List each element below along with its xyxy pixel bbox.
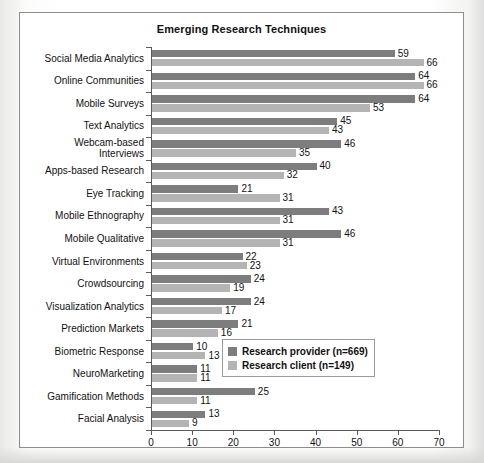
category-tick <box>146 205 151 206</box>
category-label: Webcam-basedInterviews <box>74 137 144 159</box>
bar-value-label: 35 <box>299 147 310 158</box>
legend-label-client: Research client (n=149) <box>242 360 354 371</box>
bar-value-label: 43 <box>332 124 343 135</box>
bar-value-label: 53 <box>373 102 384 113</box>
bar-value-label: 23 <box>250 260 261 271</box>
x-axis-tick-label: 10 <box>187 437 198 448</box>
category-tick <box>146 295 151 296</box>
category-label: Mobile Qualitative <box>65 233 144 244</box>
bar-client <box>152 374 197 381</box>
bar-value-label: 31 <box>283 214 294 225</box>
bar-value-label: 13 <box>208 350 219 361</box>
bar-value-label: 32 <box>287 169 298 180</box>
category-tick <box>146 160 151 161</box>
bar-value-label: 21 <box>241 318 252 329</box>
x-axis-tick <box>233 430 234 435</box>
category-label: Mobile Ethnography <box>55 210 144 221</box>
legend-label-provider: Research provider (n=669) <box>242 346 368 357</box>
category-tick <box>146 137 151 138</box>
x-axis-tick-label: 70 <box>433 437 444 448</box>
bar-value-label: 9 <box>192 417 198 428</box>
category-label: Social Media Analytics <box>45 53 145 64</box>
x-axis-tick-label: 30 <box>269 437 280 448</box>
category-tick <box>146 430 151 431</box>
legend-swatch-icon-client <box>228 361 237 370</box>
bar-provider <box>152 253 243 260</box>
category-tick <box>146 227 151 228</box>
category-label: Mobile Surveys <box>76 98 144 109</box>
bar-client <box>152 82 424 89</box>
bar-client <box>152 127 329 134</box>
bar-client <box>152 104 370 111</box>
legend-item-client: Research client (n=149) <box>228 358 368 372</box>
category-label: Online Communities <box>54 75 144 86</box>
x-axis-tick <box>274 430 275 435</box>
bar-client <box>152 172 284 179</box>
bar-value-label: 59 <box>398 48 409 59</box>
category-label: Biometric Response <box>55 346 144 357</box>
x-axis-tick-label: 0 <box>148 437 154 448</box>
category-tick <box>146 362 151 363</box>
category-tick <box>146 317 151 318</box>
bar-value-label: 25 <box>258 386 269 397</box>
bar-client <box>152 217 280 224</box>
bar-value-label: 31 <box>283 237 294 248</box>
category-tick <box>146 182 151 183</box>
bar-value-label: 21 <box>241 183 252 194</box>
category-label: Apps-based Research <box>45 165 144 176</box>
category-label: Visualization Analytics <box>46 301 144 312</box>
x-axis-tick <box>439 430 440 435</box>
x-axis-tick <box>151 430 152 435</box>
bar-client <box>152 352 205 359</box>
category-label: NeuroMarketing <box>73 368 144 379</box>
bar-value-label: 64 <box>418 93 429 104</box>
bar-provider <box>152 185 238 192</box>
x-axis-line <box>151 430 440 431</box>
category-tick <box>146 272 151 273</box>
x-axis-tick-label: 40 <box>310 437 321 448</box>
x-axis-tick-label: 60 <box>392 437 403 448</box>
bar-value-label: 43 <box>332 205 343 216</box>
bar-value-label: 24 <box>254 296 265 307</box>
x-axis-tick-label: 20 <box>228 437 239 448</box>
x-axis-tick <box>316 430 317 435</box>
bar-provider <box>152 118 337 125</box>
x-axis-tick <box>357 430 358 435</box>
bar-value-label: 17 <box>225 305 236 316</box>
category-label: Text Analytics <box>83 120 144 131</box>
chart-title: Emerging Research Techniques <box>20 23 463 35</box>
bar-client <box>152 329 218 336</box>
bar-client <box>152 194 280 201</box>
bar-provider <box>152 230 341 237</box>
category-label: Facial Analysis <box>78 413 144 424</box>
bar-provider <box>152 365 197 372</box>
category-label: Crowdsourcing <box>77 278 144 289</box>
bar-value-label: 11 <box>200 372 210 383</box>
bar-client <box>152 284 230 291</box>
bar-value-label: 11 <box>200 395 210 406</box>
category-label: Eye Tracking <box>86 188 144 199</box>
chart-frame: Emerging Research Techniques 01020304050… <box>19 12 464 448</box>
category-label: Gamification Methods <box>47 391 144 402</box>
bar-value-label: 46 <box>344 228 355 239</box>
bar-value-label: 46 <box>344 138 355 149</box>
bar-provider <box>152 73 415 80</box>
category-tick <box>146 385 151 386</box>
bar-value-label: 16 <box>221 327 232 338</box>
bar-value-label: 66 <box>427 57 438 68</box>
x-axis-tick <box>398 430 399 435</box>
category-tick <box>146 115 151 116</box>
category-label: Virtual Environments <box>52 256 144 267</box>
bar-value-label: 19 <box>233 282 244 293</box>
category-tick <box>146 70 151 71</box>
bar-value-label: 10 <box>196 341 207 352</box>
bar-client <box>152 239 280 246</box>
legend-item-provider: Research provider (n=669) <box>228 344 368 358</box>
bar-client <box>152 307 222 314</box>
bar-value-label: 40 <box>320 160 331 171</box>
bar-client <box>152 262 247 269</box>
category-tick <box>146 340 151 341</box>
x-axis-tick-label: 50 <box>351 437 362 448</box>
bar-provider <box>152 208 329 215</box>
page-bottom-shadow <box>0 447 484 463</box>
